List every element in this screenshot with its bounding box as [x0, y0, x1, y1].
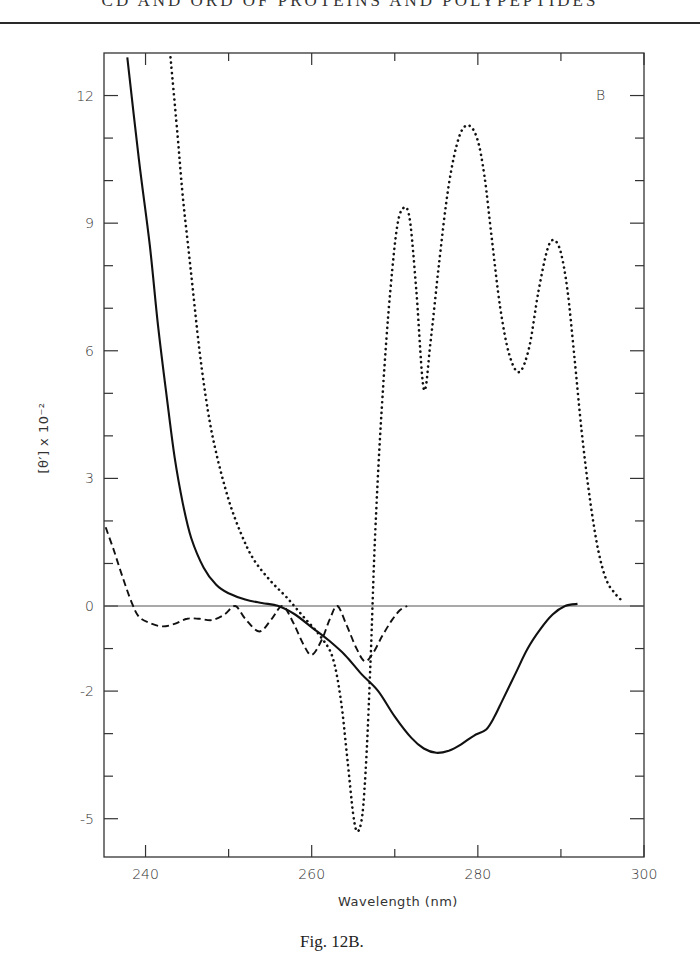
- data-series: [106, 57, 621, 831]
- dashed-curve: [106, 527, 408, 661]
- x-tick-label: 280: [464, 866, 491, 882]
- y-tick-label: 3: [85, 470, 94, 486]
- x-tick-label: 260: [298, 866, 325, 882]
- dotted-curve: [171, 57, 621, 831]
- axis-ticks: [104, 53, 644, 857]
- plot-border: [104, 53, 644, 857]
- y-tick-label: 9: [85, 215, 94, 231]
- x-tick-label: 240: [132, 866, 159, 882]
- y-tick-label: 12: [76, 88, 94, 104]
- y-tick-label: 0: [85, 598, 94, 614]
- plot-frame: [104, 53, 644, 857]
- y-tick-label: 6: [85, 343, 94, 359]
- panel-label: B: [596, 87, 605, 103]
- x-axis-title: Wavelength (nm): [338, 894, 458, 909]
- y-axis-title: [θ′] x 10⁻²: [36, 402, 51, 473]
- y-tick-label: -2: [80, 683, 94, 699]
- solid-curve: [127, 57, 577, 753]
- y-tick-label: -5: [80, 811, 94, 827]
- figure-caption: Fig. 12B.: [300, 932, 364, 952]
- cd-spectrum-chart: 240260280300-5-2036912 B Wavelength (nm)…: [0, 0, 700, 968]
- x-tick-label: 300: [631, 866, 658, 882]
- caption-text: Fig. 12B.: [300, 932, 364, 951]
